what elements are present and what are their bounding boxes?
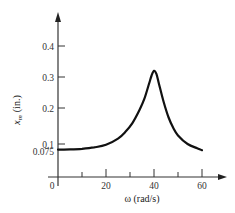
x-tick-label: 0 [50, 181, 55, 191]
ticks: 0.0750.10.20.30.40204060 [33, 42, 207, 192]
x-tick-label: 40 [149, 181, 159, 191]
svg-text:xm(in.): xm(in.) [11, 95, 24, 125]
y-tick-label: 0.1 [42, 140, 54, 150]
x-tick-label: 60 [197, 181, 207, 191]
y-tick-label: 0.4 [42, 42, 54, 52]
y-axis-label-unit: (in.) [11, 95, 23, 112]
axes [48, 12, 227, 186]
resonance-chart: 0.0750.10.20.30.40204060 ω (rad/s) xm(in… [0, 0, 235, 213]
y-axis-label: xm(in.) [11, 95, 24, 125]
x-axis-label: ω (rad/s) [124, 193, 159, 205]
y-tick-label: 0.2 [42, 104, 54, 114]
y-tick-label: 0.3 [42, 73, 54, 83]
y-axis-arrow-icon [55, 12, 61, 22]
x-axis-arrow-icon [218, 174, 227, 180]
x-tick-label: 20 [101, 181, 111, 191]
amplitude-curve [58, 71, 202, 150]
y-axis-label-sub: m [16, 115, 24, 120]
